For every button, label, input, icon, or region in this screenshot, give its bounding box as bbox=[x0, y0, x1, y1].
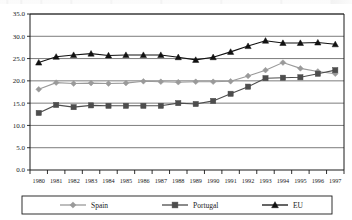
x-axis-tick-label: 1983 bbox=[85, 177, 97, 184]
data-point-marker bbox=[263, 67, 269, 73]
data-point-marker bbox=[333, 68, 338, 73]
data-point-marker bbox=[141, 78, 147, 84]
x-axis-tick-label: 1992 bbox=[242, 177, 254, 184]
series-line bbox=[39, 41, 336, 63]
data-point-marker bbox=[175, 79, 181, 85]
data-point-marker bbox=[106, 103, 111, 108]
x-axis-tick-label: 1991 bbox=[224, 177, 236, 184]
x-axis-tick-label: 1985 bbox=[120, 177, 132, 184]
y-axis-tick-label: 25.0 bbox=[13, 55, 26, 63]
data-point-marker bbox=[88, 103, 93, 108]
data-point-marker bbox=[123, 103, 128, 108]
y-axis-tick-label: 5.0 bbox=[16, 144, 25, 152]
data-point-marker bbox=[158, 79, 164, 85]
x-axis-tick-label: 1995 bbox=[294, 177, 306, 184]
data-point-marker bbox=[263, 76, 268, 81]
data-point-marker bbox=[36, 110, 41, 115]
data-point-marker bbox=[315, 71, 320, 76]
y-axis-tick-label: 20.0 bbox=[13, 77, 26, 85]
data-point-marker bbox=[210, 79, 216, 85]
data-point-marker bbox=[298, 66, 304, 72]
y-axis-tick-label: 0.0 bbox=[16, 166, 25, 174]
series-line bbox=[39, 63, 336, 90]
series-portugal bbox=[36, 68, 338, 116]
data-point-marker bbox=[298, 75, 303, 80]
legend-item-portugal[interactable]: Portugal bbox=[162, 201, 218, 210]
x-axis-tick-label: 1997 bbox=[329, 177, 341, 184]
y-gridlines: 0.05.010.015.020.025.030.035.0 bbox=[13, 10, 344, 174]
legend-item-spain[interactable]: Spain bbox=[60, 201, 108, 210]
data-point-marker bbox=[158, 103, 163, 108]
x-axis-tick-label: 1981 bbox=[50, 177, 62, 184]
x-axis-tick-label: 1996 bbox=[312, 177, 324, 184]
legend-label: EU bbox=[293, 201, 304, 210]
legend-marker-square-icon bbox=[172, 202, 178, 208]
data-point-marker bbox=[71, 81, 77, 87]
x-axis-tick-label: 1993 bbox=[259, 177, 271, 184]
data-point-marker bbox=[71, 105, 76, 110]
data-point-marker bbox=[106, 81, 112, 87]
series-line bbox=[39, 70, 336, 113]
data-point-marker bbox=[245, 73, 251, 79]
data-point-marker bbox=[262, 38, 268, 44]
series-eu bbox=[36, 38, 339, 65]
data-point-marker bbox=[280, 60, 286, 66]
x-axis-tick-label: 1982 bbox=[67, 177, 79, 184]
data-point-marker bbox=[193, 101, 198, 106]
y-axis-tick-label: 10.0 bbox=[13, 122, 26, 130]
line-chart: 0.05.010.015.020.025.030.035.01980198119… bbox=[0, 0, 352, 220]
y-axis-tick-label: 30.0 bbox=[13, 33, 26, 41]
legend-label: Portugal bbox=[193, 201, 218, 210]
y-axis-tick-label: 15.0 bbox=[13, 100, 26, 108]
data-point-marker bbox=[54, 102, 59, 107]
legend-item-eu[interactable]: EU bbox=[262, 201, 304, 210]
chart-legend: SpainPortugalEU bbox=[22, 196, 332, 214]
x-axis-tick-label: 1980 bbox=[33, 177, 45, 184]
series-spain bbox=[36, 60, 338, 92]
data-point-marker bbox=[211, 98, 216, 103]
data-point-marker bbox=[228, 78, 234, 84]
data-point-marker bbox=[245, 84, 250, 89]
x-axis-tick-label: 1994 bbox=[277, 177, 289, 184]
legend-label: Spain bbox=[91, 201, 108, 210]
x-axis-tick-label: 1989 bbox=[190, 177, 202, 184]
data-point-marker bbox=[193, 79, 199, 85]
data-point-marker bbox=[280, 75, 285, 80]
x-axis: 1980198119821983198419851986198719881989… bbox=[30, 170, 344, 184]
x-axis-tick-label: 1988 bbox=[172, 177, 184, 184]
x-axis-tick-label: 1987 bbox=[155, 177, 167, 184]
data-point-marker bbox=[36, 86, 42, 92]
data-point-marker bbox=[176, 101, 181, 106]
x-axis-tick-label: 1990 bbox=[207, 177, 219, 184]
chart-container: 0.05.010.015.020.025.030.035.01980198119… bbox=[0, 0, 352, 220]
data-point-marker bbox=[141, 103, 146, 108]
x-axis-tick-label: 1984 bbox=[102, 177, 114, 184]
data-point-marker bbox=[228, 91, 233, 96]
y-axis-tick-label: 35.0 bbox=[13, 10, 26, 18]
legend-marker-diamond-icon bbox=[70, 202, 76, 208]
x-axis-tick-label: 1986 bbox=[137, 177, 149, 184]
plot-frame bbox=[30, 14, 344, 170]
